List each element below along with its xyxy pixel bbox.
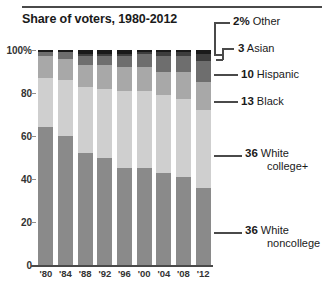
bar-segment-hispanic[interactable] — [176, 56, 191, 71]
header-rule — [22, 6, 322, 8]
bar-segment-white-college[interactable] — [137, 91, 152, 168]
bar-segment-hispanic[interactable] — [137, 54, 152, 67]
bar-80[interactable] — [38, 50, 53, 265]
bar-segment-white-college[interactable] — [196, 110, 211, 187]
leader-line-asian — [222, 48, 234, 50]
chart-figure: Share of voters, 1980-2012 100% 80 60 40… — [0, 0, 331, 299]
bar-92[interactable] — [97, 50, 112, 265]
bar-segment-black[interactable] — [117, 67, 132, 91]
bar-88[interactable] — [78, 50, 93, 265]
legend-label-asian: Asian — [247, 42, 275, 54]
bar-segment-white-college[interactable] — [117, 91, 132, 168]
legend-label-other: Other — [253, 15, 281, 27]
leader-line-black — [214, 101, 238, 103]
bar-segment-other[interactable] — [196, 50, 211, 54]
bar-segment-white-college[interactable] — [58, 80, 73, 136]
bar-segment-asian[interactable] — [176, 52, 191, 56]
legend-value-white-college: 36 — [245, 147, 258, 159]
bar-segment-other[interactable] — [137, 50, 152, 52]
bar-segment-white-college[interactable] — [38, 78, 53, 127]
bar-08[interactable] — [176, 50, 191, 265]
bar-segment-hispanic[interactable] — [97, 56, 112, 65]
plot-area — [36, 50, 213, 265]
leader-line-whitecol — [214, 155, 242, 157]
bar-segment-white-noncollege[interactable] — [38, 127, 53, 265]
bar-segment-black[interactable] — [137, 67, 152, 91]
y-tick-label: 100% — [6, 45, 32, 56]
legend-item-white-college: 36 White college+ — [245, 147, 308, 173]
x-axis: '80 '84 '88 '92 '96 '00 '04 '08 '12 — [36, 268, 213, 284]
bar-04[interactable] — [156, 50, 171, 265]
bar-segment-white-noncollege[interactable] — [117, 168, 132, 265]
bar-segment-hispanic[interactable] — [196, 61, 211, 83]
legend-value-other: 2% — [233, 15, 250, 27]
legend-item-white-noncollege: 36 White noncollege — [245, 224, 320, 250]
bar-segment-hispanic[interactable] — [78, 56, 93, 65]
leader-line-whitenon — [214, 232, 242, 234]
y-axis: 100% 80 60 40 20 0 — [0, 50, 32, 265]
bar-segment-white-noncollege[interactable] — [97, 158, 112, 266]
bar-segment-hispanic[interactable] — [58, 52, 73, 58]
bar-segment-white-college[interactable] — [156, 95, 171, 172]
legend-item-hispanic: 10 Hispanic — [241, 68, 299, 81]
bar-segment-white-noncollege[interactable] — [58, 136, 73, 265]
bar-segment-other[interactable] — [58, 50, 73, 52]
bar-segment-asian[interactable] — [137, 52, 152, 54]
bar-segment-other[interactable] — [117, 50, 132, 54]
bar-segment-hispanic[interactable] — [117, 56, 132, 67]
legend-value-asian: 3 — [238, 42, 244, 54]
leader-line-other-b — [214, 54, 222, 56]
bar-96[interactable] — [117, 50, 132, 265]
bar-segment-white-noncollege[interactable] — [78, 153, 93, 265]
legend-item-black: 13 Black — [241, 95, 284, 108]
bar-segment-other[interactable] — [176, 50, 191, 52]
bar-segment-asian[interactable] — [117, 54, 132, 56]
bar-segment-white-noncollege[interactable] — [196, 188, 211, 265]
bar-12[interactable] — [196, 50, 211, 265]
bar-segment-other[interactable] — [97, 50, 112, 54]
legend-label-white-noncollege-line2: noncollege — [267, 237, 320, 249]
legend-label-hispanic: Hispanic — [257, 68, 299, 80]
bar-00[interactable] — [137, 50, 152, 265]
leader-line-hispanic — [214, 74, 238, 76]
bar-segment-black[interactable] — [156, 72, 171, 96]
bar-segment-asian[interactable] — [97, 54, 112, 56]
bar-segment-white-noncollege[interactable] — [137, 168, 152, 265]
leader-line-asian-b — [216, 59, 223, 61]
bar-segment-black[interactable] — [38, 56, 53, 78]
legend-label-white-noncollege-line1: White — [261, 224, 289, 236]
bar-segment-asian[interactable] — [196, 54, 211, 60]
bar-segment-white-college[interactable] — [176, 99, 191, 176]
bar-segment-hispanic[interactable] — [156, 56, 171, 71]
bar-segment-other[interactable] — [38, 50, 53, 52]
bar-segment-white-noncollege[interactable] — [176, 177, 191, 265]
bar-segment-asian[interactable] — [78, 54, 93, 56]
bar-segment-other[interactable] — [78, 50, 93, 54]
x-tick-label: '12 — [192, 268, 214, 279]
legend-item-other: 2% Other — [233, 15, 280, 28]
bar-segment-white-college[interactable] — [97, 89, 112, 158]
legend-label-black: Black — [257, 95, 284, 107]
bar-segment-black[interactable] — [97, 65, 112, 89]
legend-value-hispanic: 10 — [241, 68, 254, 80]
legend-item-asian: 3 Asian — [238, 42, 274, 55]
bar-84[interactable] — [58, 50, 73, 265]
leader-line-other-v — [214, 22, 216, 55]
legend-value-white-noncollege: 36 — [245, 224, 258, 236]
bar-segment-white-college[interactable] — [78, 87, 93, 154]
bar-segment-black[interactable] — [78, 65, 93, 87]
bar-segment-white-noncollege[interactable] — [156, 173, 171, 265]
legend-value-black: 13 — [241, 95, 254, 107]
page-title: Share of voters, 1980-2012 — [22, 12, 177, 26]
legend-label-white-college-line1: White — [261, 147, 289, 159]
bar-segment-asian[interactable] — [156, 52, 171, 56]
bar-segment-black[interactable] — [58, 59, 73, 81]
legend-label-white-college-line2: college+ — [267, 160, 308, 172]
leader-line-other — [214, 22, 230, 24]
bar-segment-black[interactable] — [176, 72, 191, 100]
axis-baseline — [31, 265, 213, 267]
bar-segment-black[interactable] — [196, 82, 211, 110]
bar-segment-hispanic[interactable] — [38, 52, 53, 56]
bar-segment-other[interactable] — [156, 50, 171, 52]
